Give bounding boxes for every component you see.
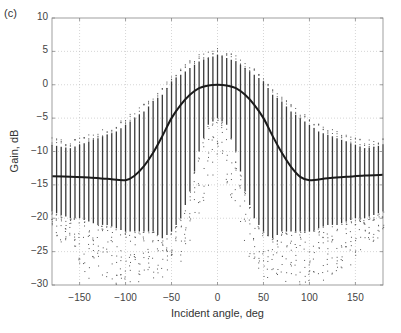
y-tick-label: −30 [22,278,48,289]
y-axis-label: Gain, dB [8,121,20,181]
y-tick-label: −10 [22,145,48,156]
x-tick-label: −50 [157,292,187,303]
x-tick-label: 50 [248,292,278,303]
y-tick-label: 10 [22,11,48,22]
x-tick-label: 0 [203,292,233,303]
y-tick-label: 0 [22,78,48,89]
x-tick-label: 100 [294,292,324,303]
y-tick-label: −5 [22,111,48,122]
y-tick-label: −15 [22,178,48,189]
y-tick-label: −20 [22,211,48,222]
y-tick-label: −25 [22,245,48,256]
x-tick-label: −100 [111,292,141,303]
chart-plot [0,0,401,333]
x-axis-label: Incident angle, deg [52,307,383,319]
x-tick-label: 150 [340,292,370,303]
panel-label: (c) [4,7,17,19]
y-tick-label: 5 [22,44,48,55]
x-tick-label: −150 [65,292,95,303]
